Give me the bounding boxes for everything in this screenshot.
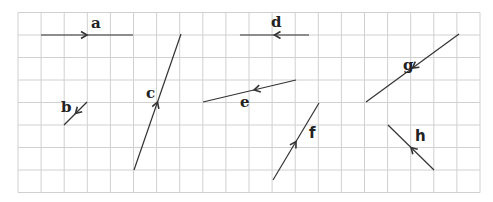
vector-f-label: f (309, 124, 316, 142)
vector-g-label: g (403, 56, 414, 74)
vector-h-label: h (415, 127, 426, 145)
vector-d: d (240, 13, 309, 39)
vector-d-label: d (271, 13, 282, 31)
vectors-layer: a b c d e (41, 13, 459, 180)
vector-diagram: a b c d e (0, 0, 493, 202)
vector-e-label: e (240, 93, 250, 111)
vector-a-label: a (91, 14, 101, 32)
vector-c-label: c (146, 84, 155, 102)
vector-f: f (273, 103, 319, 180)
vector-g: g (366, 34, 459, 102)
diagram-svg: a b c d e (0, 0, 493, 202)
vector-b-label: b (61, 98, 72, 116)
